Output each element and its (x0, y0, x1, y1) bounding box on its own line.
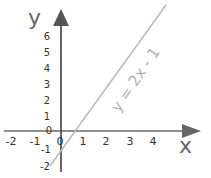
y-tick-4: 4 (44, 63, 50, 74)
x-tick-neg1: -1 (30, 135, 41, 148)
x-tick-neg2: -2 (6, 135, 17, 148)
x-tick-1: 1 (80, 135, 87, 148)
y-tick-neg1: -1 (41, 144, 51, 155)
line-chart: y x y = 2x - 1 6 5 4 3 2 1 0 -1 -2 -2 -1… (0, 0, 211, 178)
x-axis-label: x (179, 133, 192, 158)
x-tick-3: 3 (127, 135, 134, 148)
y-axis-label: y (28, 5, 41, 30)
y-tick-6: 6 (44, 31, 50, 42)
y-tick-5: 5 (44, 47, 50, 58)
y-tick-neg2: -2 (40, 161, 50, 172)
y-tick-0: 0 (46, 125, 52, 136)
y-tick-labels: 6 5 4 3 2 1 0 -1 -2 (40, 31, 52, 172)
line-label: y = 2x - 1 (107, 44, 163, 115)
y-tick-2: 2 (44, 95, 50, 106)
y-tick-3: 3 (44, 79, 50, 90)
x-tick-labels: -2 -1 0 1 2 3 4 (6, 135, 157, 148)
x-tick-4: 4 (150, 135, 157, 148)
y-tick-1: 1 (44, 111, 50, 122)
x-tick-0: 0 (57, 135, 64, 148)
y-axis-arrow-icon (53, 9, 69, 26)
x-tick-2: 2 (103, 135, 110, 148)
